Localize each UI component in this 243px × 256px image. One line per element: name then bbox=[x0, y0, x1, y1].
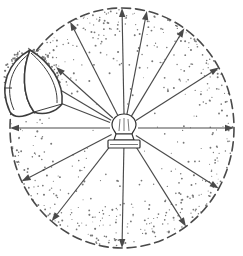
stipple-dot bbox=[225, 150, 226, 151]
stipple-dot bbox=[190, 49, 192, 51]
stipple-dot bbox=[18, 155, 19, 156]
stipple-dot bbox=[46, 42, 48, 44]
stipple-dot bbox=[116, 219, 117, 220]
stipple-dot bbox=[167, 90, 169, 92]
stipple-dot bbox=[115, 221, 117, 223]
stipple-dot bbox=[153, 226, 155, 228]
reflector-dish-face bbox=[24, 50, 62, 114]
stipple-dot bbox=[81, 223, 82, 224]
ray-nnw-arrowhead bbox=[70, 22, 77, 31]
stipple-dot bbox=[78, 176, 79, 177]
stipple-dot bbox=[119, 30, 121, 32]
stipple-dot bbox=[151, 222, 152, 223]
stipple-dot bbox=[218, 89, 219, 90]
stipple-dot bbox=[55, 64, 57, 66]
stipple-dot bbox=[78, 160, 80, 162]
stipple-dot bbox=[201, 72, 203, 74]
stipple-dot bbox=[217, 73, 219, 75]
ray-n bbox=[119, 8, 125, 114]
stipple-dot bbox=[53, 193, 54, 194]
stipple-dot bbox=[197, 46, 199, 48]
stipple-dot bbox=[180, 173, 182, 175]
ray-nne bbox=[127, 11, 148, 114]
stipple-dot bbox=[90, 31, 92, 33]
stipple-dot bbox=[149, 204, 151, 206]
stipple-dot bbox=[153, 183, 154, 184]
stipple-dot bbox=[70, 77, 71, 78]
stipple-dot bbox=[128, 64, 130, 66]
stipple-dot bbox=[91, 234, 93, 236]
stipple-dot bbox=[192, 216, 194, 218]
stipple-dot bbox=[139, 33, 141, 35]
stipple-dot bbox=[209, 58, 211, 60]
stipple-dot bbox=[93, 24, 94, 25]
stipple-dot bbox=[89, 22, 90, 23]
stipple-dot bbox=[183, 142, 185, 144]
stipple-dot bbox=[146, 45, 148, 47]
stipple-dot bbox=[64, 61, 65, 62]
stipple-dot bbox=[193, 209, 195, 211]
stipple-dot bbox=[109, 215, 110, 216]
stipple-dot bbox=[33, 49, 35, 51]
stipple-dot bbox=[71, 219, 72, 220]
stipple-dot bbox=[111, 209, 113, 211]
stipple-dot bbox=[135, 24, 136, 25]
stipple-dot bbox=[117, 180, 119, 182]
stipple-dot bbox=[56, 57, 57, 58]
stipple-dot bbox=[71, 209, 72, 210]
stipple-dot bbox=[56, 72, 58, 74]
stipple-dot bbox=[49, 52, 51, 54]
stipple-dot bbox=[198, 213, 199, 214]
stipple-dot bbox=[76, 229, 78, 231]
stipple-dot bbox=[37, 185, 39, 187]
stipple-dot bbox=[53, 49, 55, 51]
stipple-dot bbox=[49, 189, 50, 190]
stipple-dot bbox=[127, 233, 128, 234]
stipple-dot bbox=[165, 212, 167, 214]
stipple-dot bbox=[116, 216, 117, 217]
stipple-dot bbox=[184, 54, 186, 56]
stipple-dot bbox=[37, 122, 38, 123]
stipple-dot bbox=[154, 17, 155, 18]
stipple-dot bbox=[56, 40, 58, 42]
stipple-dot bbox=[114, 34, 116, 36]
stipple-dot bbox=[188, 47, 189, 48]
stipple-dot bbox=[27, 168, 29, 170]
stipple-dot bbox=[93, 217, 94, 218]
stipple-dot bbox=[54, 69, 56, 71]
stipple-dot bbox=[208, 67, 209, 68]
stipple-dot bbox=[19, 51, 20, 52]
stipple-dot bbox=[137, 29, 139, 31]
stipple-dot bbox=[67, 84, 68, 85]
stipple-dot bbox=[218, 153, 219, 154]
stipple-dot bbox=[68, 42, 70, 44]
stipple-dot bbox=[96, 242, 98, 244]
stipple-dot bbox=[147, 21, 149, 23]
stipple-dot bbox=[195, 90, 196, 91]
stipple-dot bbox=[16, 55, 17, 56]
stipple-dot bbox=[118, 9, 119, 10]
stipple-dot bbox=[157, 217, 158, 218]
stipple-dot bbox=[207, 89, 208, 90]
stipple-dot bbox=[132, 94, 134, 96]
stipple-dot bbox=[114, 238, 116, 240]
stipple-dot bbox=[163, 87, 165, 89]
stipple-dot bbox=[198, 160, 200, 162]
stipple-dot bbox=[43, 194, 45, 196]
stipple-dot bbox=[117, 209, 118, 210]
stipple-dot bbox=[218, 113, 220, 115]
stipple-dot bbox=[184, 40, 186, 42]
stipple-dot bbox=[143, 77, 144, 78]
ray-w bbox=[10, 125, 110, 131]
stipple-dot bbox=[124, 242, 126, 244]
stipple-dot bbox=[16, 149, 18, 151]
stipple-dot bbox=[187, 79, 189, 81]
stipple-dot bbox=[90, 198, 92, 200]
stipple-dot bbox=[141, 180, 143, 182]
stipple-dot bbox=[98, 20, 100, 22]
stipple-dot bbox=[83, 199, 84, 200]
stipple-dot bbox=[7, 66, 9, 68]
stipple-dot bbox=[46, 60, 47, 61]
stipple-dot bbox=[199, 206, 200, 207]
stipple-dot bbox=[36, 130, 38, 132]
